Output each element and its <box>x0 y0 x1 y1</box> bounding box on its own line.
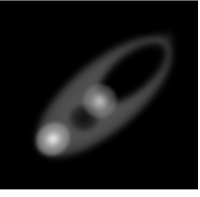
image-frame <box>0 0 200 197</box>
dark-spot <box>69 105 99 131</box>
elliptical-disk <box>17 16 191 178</box>
bright-spot <box>29 115 77 163</box>
central-bright-blob <box>83 84 117 118</box>
inner-hole <box>87 31 177 115</box>
top-border <box>0 0 198 1</box>
disk-upper-rim <box>119 25 180 82</box>
image-canvas <box>0 1 198 189</box>
bottom-border <box>0 189 198 190</box>
